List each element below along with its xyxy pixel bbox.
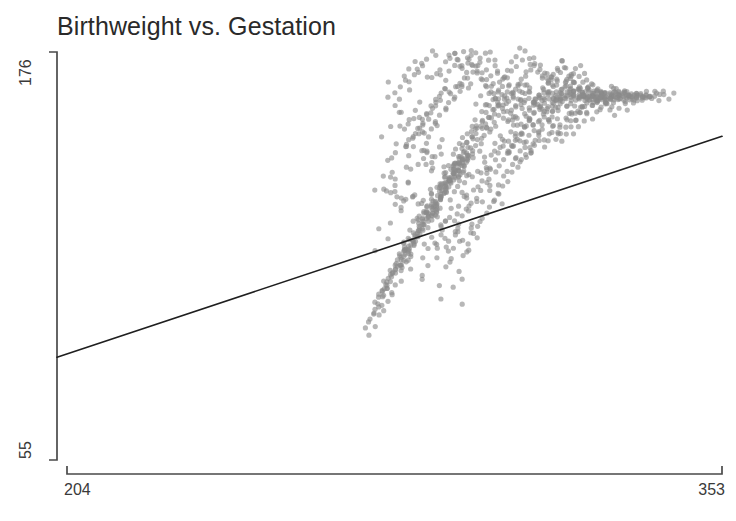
data-point (425, 263, 430, 268)
data-point (532, 128, 537, 133)
data-point (390, 170, 395, 175)
data-point (502, 97, 507, 102)
data-point (453, 84, 458, 89)
data-point (420, 122, 425, 127)
data-point (522, 82, 527, 87)
data-point (425, 74, 430, 79)
data-point (526, 96, 531, 101)
data-point (471, 155, 476, 160)
data-point (598, 95, 603, 100)
data-point (578, 63, 583, 68)
data-point (671, 91, 676, 96)
data-point (386, 79, 391, 84)
data-point (464, 150, 469, 155)
data-point (546, 117, 551, 122)
data-point (568, 118, 573, 123)
data-point (492, 148, 497, 153)
data-point (446, 52, 451, 57)
data-point (582, 71, 587, 76)
y-axis (49, 52, 57, 460)
data-point (526, 133, 531, 138)
data-point (406, 66, 411, 71)
data-point (399, 195, 404, 200)
data-point (591, 91, 596, 96)
data-point (523, 152, 528, 157)
data-point (478, 188, 483, 193)
data-point (529, 150, 534, 155)
data-point (452, 51, 457, 56)
data-point (371, 310, 376, 315)
data-point (568, 124, 573, 129)
data-point (410, 194, 415, 199)
data-point (392, 183, 397, 188)
data-point (515, 123, 520, 128)
data-point (385, 299, 390, 304)
data-point (398, 84, 403, 89)
data-point (501, 173, 506, 178)
data-point (491, 199, 496, 204)
data-point (563, 125, 568, 130)
data-point (464, 206, 469, 211)
data-point (502, 138, 507, 143)
data-point (473, 143, 478, 148)
data-point (388, 220, 393, 225)
data-point (647, 94, 652, 99)
data-point (433, 121, 438, 126)
data-point (406, 79, 411, 84)
data-point (432, 240, 437, 245)
data-point (416, 131, 421, 136)
data-point (411, 144, 416, 149)
data-point (468, 81, 473, 86)
data-point (417, 99, 422, 104)
data-point (475, 224, 480, 229)
data-point (585, 94, 590, 99)
data-point (443, 218, 448, 223)
data-point (367, 316, 372, 321)
data-point (388, 124, 393, 129)
data-point (501, 157, 506, 162)
data-point (492, 120, 497, 125)
data-point (537, 107, 542, 112)
data-point (422, 131, 427, 136)
data-point (555, 116, 560, 121)
data-point (513, 104, 518, 109)
axis-lines (49, 52, 722, 474)
data-point (413, 59, 418, 64)
data-point (580, 80, 585, 85)
data-point (532, 96, 537, 101)
data-point (590, 116, 595, 121)
data-point (531, 123, 536, 128)
data-point (461, 49, 466, 54)
data-point (483, 51, 488, 56)
data-point (559, 139, 564, 144)
data-point (576, 124, 581, 129)
data-point (500, 183, 505, 188)
data-point (460, 277, 465, 282)
data-point (558, 70, 563, 75)
scatter-plot-canvas (0, 0, 736, 521)
data-point (616, 89, 621, 94)
data-point (399, 208, 404, 213)
data-point (475, 235, 480, 240)
data-point (429, 126, 434, 131)
data-point (458, 89, 463, 94)
data-point (421, 222, 426, 227)
data-point (419, 148, 424, 153)
data-point (416, 221, 421, 226)
data-point (514, 64, 519, 69)
data-point (459, 146, 464, 151)
data-point (468, 145, 473, 150)
data-point (487, 103, 492, 108)
data-point (419, 61, 424, 66)
data-point (519, 157, 524, 162)
data-point (437, 144, 442, 149)
data-point (562, 84, 567, 89)
data-point (509, 169, 514, 174)
data-point (465, 75, 470, 80)
data-point (410, 136, 415, 141)
data-point (452, 218, 457, 223)
data-point (509, 68, 514, 73)
data-point (406, 180, 411, 185)
data-point (625, 108, 630, 113)
data-point (493, 157, 498, 162)
